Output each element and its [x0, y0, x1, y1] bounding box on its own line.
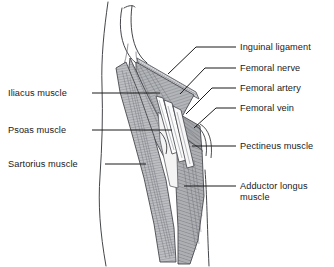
label-iliacus-muscle: Iliacus muscle: [8, 88, 67, 98]
label-adductor-longus-muscle-line2: muscle: [240, 192, 270, 202]
label-sartorius-muscle: Sartorius muscle: [8, 159, 78, 169]
label-inguinal-ligament: Inguinal ligament: [240, 42, 311, 52]
label-femoral-vein: Femoral vein: [240, 103, 294, 113]
label-psoas-muscle: Psoas muscle: [8, 125, 66, 135]
anatomy-diagram: Iliacus muscle Psoas muscle Sartorius mu…: [0, 0, 334, 267]
label-pectineus-muscle: Pectineus muscle: [240, 141, 313, 151]
label-femoral-artery: Femoral artery: [240, 83, 301, 93]
label-femoral-nerve: Femoral nerve: [240, 63, 300, 73]
label-adductor-longus-muscle-line1: Adductor longus: [240, 181, 308, 191]
